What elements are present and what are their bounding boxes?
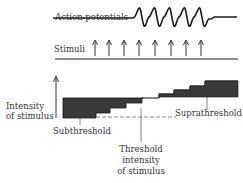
y-axis-label-line1: Intensity <box>6 101 44 111</box>
subthreshold-label: Subthreshold <box>53 126 111 136</box>
subthreshold-region <box>63 98 143 118</box>
stimulus-arrows <box>93 40 204 56</box>
threshold-label-line3: of stimulus <box>111 166 171 176</box>
threshold-label-line2: intensity <box>111 155 171 165</box>
suprathreshold-label: Suprathreshold <box>175 108 242 118</box>
action-potentials-label: Action potentials <box>55 12 128 22</box>
y-axis-label-line2: of stimulus <box>6 111 54 121</box>
suprathreshold-region <box>159 81 238 98</box>
stimuli-label: Stimuli <box>54 44 85 54</box>
threshold-label-line1: Threshold <box>111 144 171 154</box>
